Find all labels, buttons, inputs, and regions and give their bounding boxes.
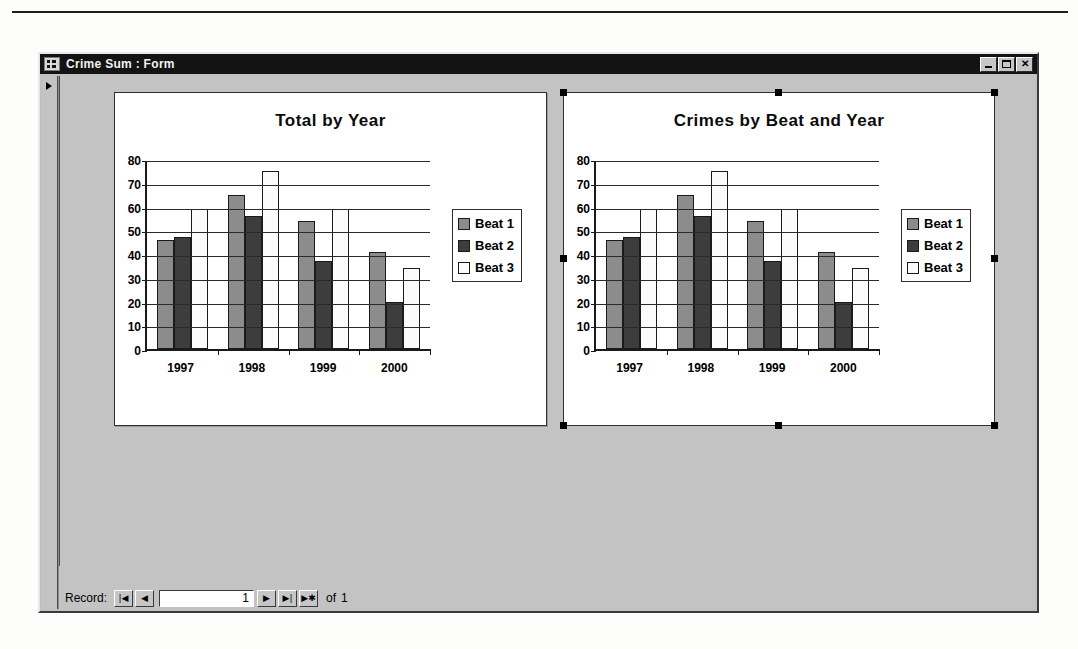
selection-handle-top-right[interactable] bbox=[991, 89, 998, 96]
gridline bbox=[147, 232, 430, 233]
x-axis-tick bbox=[218, 349, 219, 355]
new-record-button[interactable]: ▶✱ bbox=[299, 590, 318, 607]
gridline bbox=[147, 185, 430, 186]
bar bbox=[677, 195, 694, 349]
maximize-button[interactable] bbox=[998, 57, 1015, 72]
record-of-label: of bbox=[326, 591, 336, 605]
x-axis-tick-label: 1997 bbox=[145, 361, 216, 375]
bar-group bbox=[218, 161, 289, 349]
x-axis-labels: 1997199819992000 bbox=[145, 361, 430, 375]
selection-handle-top-center[interactable] bbox=[775, 89, 782, 96]
minimize-button[interactable] bbox=[980, 57, 997, 72]
x-axis-tick bbox=[808, 349, 809, 355]
plot-area: 01020304050607080 1997199819992000 bbox=[594, 161, 879, 351]
y-axis-tick-label: 60 bbox=[577, 203, 590, 215]
bar-group bbox=[359, 161, 430, 349]
bar-group bbox=[596, 161, 667, 349]
bar-group bbox=[738, 161, 809, 349]
y-axis-tick bbox=[591, 232, 596, 233]
selection-handle-bottom-center[interactable] bbox=[775, 422, 782, 429]
record-number-input[interactable]: 1 bbox=[159, 590, 254, 607]
y-axis-tick-label: 20 bbox=[577, 298, 590, 310]
bar bbox=[262, 171, 279, 349]
chart-title: Total by Year bbox=[115, 111, 546, 131]
gridline bbox=[147, 327, 430, 328]
y-axis-tick bbox=[591, 280, 596, 281]
previous-record-button[interactable]: ◀ bbox=[135, 590, 154, 607]
x-axis-tick-label: 1998 bbox=[665, 361, 736, 375]
legend-swatch-icon bbox=[907, 240, 919, 252]
y-axis-tick-label: 50 bbox=[577, 226, 590, 238]
bar bbox=[298, 221, 315, 349]
gridline bbox=[596, 304, 879, 305]
selection-handle-middle-left[interactable] bbox=[560, 255, 567, 262]
y-axis-tick bbox=[142, 304, 147, 305]
bar bbox=[711, 171, 728, 349]
legend-item: Beat 1 bbox=[907, 216, 963, 231]
legend-swatch-icon bbox=[458, 240, 470, 252]
legend-label: Beat 1 bbox=[924, 216, 963, 231]
selection-handle-bottom-left[interactable] bbox=[560, 422, 567, 429]
gridline bbox=[147, 280, 430, 281]
x-axis-tick-label: 2000 bbox=[808, 361, 879, 375]
y-axis-tick-label: 10 bbox=[577, 321, 590, 333]
next-record-button[interactable]: ▶ bbox=[257, 590, 276, 607]
first-record-button[interactable]: |◀ bbox=[114, 590, 133, 607]
legend-item: Beat 3 bbox=[458, 260, 514, 275]
record-navigator: Record: |◀ ◀ 1 ▶ ▶| ▶✱ of 1 bbox=[59, 586, 1035, 609]
y-axis-tick-label: 30 bbox=[577, 274, 590, 286]
y-axis-tick-label: 0 bbox=[583, 345, 590, 357]
bar bbox=[386, 302, 403, 350]
chart-area: 01020304050607080 1997199819992000 Beat … bbox=[564, 151, 994, 425]
gridline bbox=[596, 280, 879, 281]
y-axis-tick bbox=[142, 280, 147, 281]
current-record-arrow-icon bbox=[46, 82, 52, 90]
legend-swatch-icon bbox=[907, 218, 919, 230]
legend-item: Beat 2 bbox=[458, 238, 514, 253]
gridline bbox=[596, 209, 879, 210]
chart-legend: Beat 1Beat 2Beat 3 bbox=[452, 209, 522, 282]
y-axis-tick-label: 50 bbox=[128, 226, 141, 238]
y-axis-tick bbox=[591, 256, 596, 257]
legend-swatch-icon bbox=[907, 262, 919, 274]
selection-handle-middle-right[interactable] bbox=[991, 255, 998, 262]
chart-title: Crimes by Beat and Year bbox=[564, 111, 994, 131]
record-selector[interactable] bbox=[42, 76, 58, 609]
y-axis-tick bbox=[142, 232, 147, 233]
chart-crimes-by-beat-and-year[interactable]: Crimes by Beat and Year 0102030405060708… bbox=[563, 92, 995, 426]
y-axis-tick bbox=[591, 327, 596, 328]
y-axis-tick bbox=[591, 185, 596, 186]
y-axis-labels: 01020304050607080 bbox=[115, 161, 141, 351]
legend-label: Beat 2 bbox=[924, 238, 963, 253]
y-axis-tick-label: 30 bbox=[128, 274, 141, 286]
gridline bbox=[596, 256, 879, 257]
selection-handle-bottom-right[interactable] bbox=[991, 422, 998, 429]
form-detail-section: Total by Year 01020304050607080 19971998… bbox=[58, 76, 1035, 609]
bar bbox=[315, 261, 332, 349]
gridline bbox=[147, 256, 430, 257]
y-axis-tick-label: 40 bbox=[577, 250, 590, 262]
record-total-count: 1 bbox=[341, 591, 348, 605]
y-axis-tick bbox=[142, 209, 147, 210]
selection-handle-top-left[interactable] bbox=[560, 89, 567, 96]
y-axis-tick bbox=[142, 351, 147, 352]
x-axis-tick bbox=[667, 349, 668, 355]
section-divider bbox=[59, 76, 60, 566]
window-controls: ✕ bbox=[980, 57, 1035, 72]
last-record-button[interactable]: ▶| bbox=[278, 590, 297, 607]
chart-area: 01020304050607080 1997199819992000 Beat … bbox=[115, 151, 546, 425]
x-axis-tick bbox=[879, 349, 880, 355]
bar bbox=[228, 195, 245, 349]
bar-groups bbox=[147, 161, 430, 349]
y-axis-labels: 01020304050607080 bbox=[564, 161, 590, 351]
bar bbox=[369, 252, 386, 349]
record-label: Record: bbox=[65, 591, 107, 605]
chart-total-by-year[interactable]: Total by Year 01020304050607080 19971998… bbox=[114, 92, 547, 426]
close-button[interactable]: ✕ bbox=[1016, 57, 1033, 72]
form-icon bbox=[44, 57, 60, 71]
gridline bbox=[596, 185, 879, 186]
y-axis-tick bbox=[142, 256, 147, 257]
gridline bbox=[147, 304, 430, 305]
window-titlebar[interactable]: Crime Sum : Form ✕ bbox=[40, 54, 1037, 74]
x-axis-tick-label: 1997 bbox=[594, 361, 665, 375]
